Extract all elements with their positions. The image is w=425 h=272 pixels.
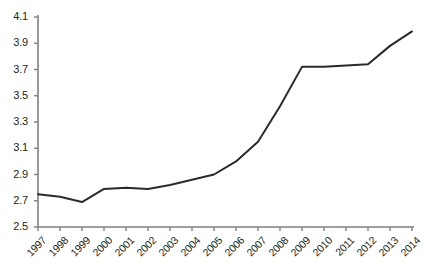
y-axis-tick-label: 2.5 (2, 221, 28, 232)
y-axis-tick-label: 2.9 (2, 169, 28, 180)
y-axis-tick-label: 3.7 (2, 64, 28, 75)
y-axis-tick-label: 4.1 (2, 11, 28, 22)
data-line-series-1 (38, 31, 412, 202)
y-axis-tick-label: 3.3 (2, 116, 28, 127)
y-axis-tick-label: 3.9 (2, 37, 28, 48)
y-axis-tick-label: 3.1 (2, 142, 28, 153)
axis-group (34, 15, 414, 231)
line-chart: 4.13.93.73.53.33.12.92.72.5 199719981999… (0, 0, 425, 272)
y-axis-tick-label: 2.7 (2, 195, 28, 206)
chart-plot-area (0, 0, 425, 272)
y-axis-tick-label: 3.5 (2, 90, 28, 101)
data-series-group (38, 31, 412, 202)
